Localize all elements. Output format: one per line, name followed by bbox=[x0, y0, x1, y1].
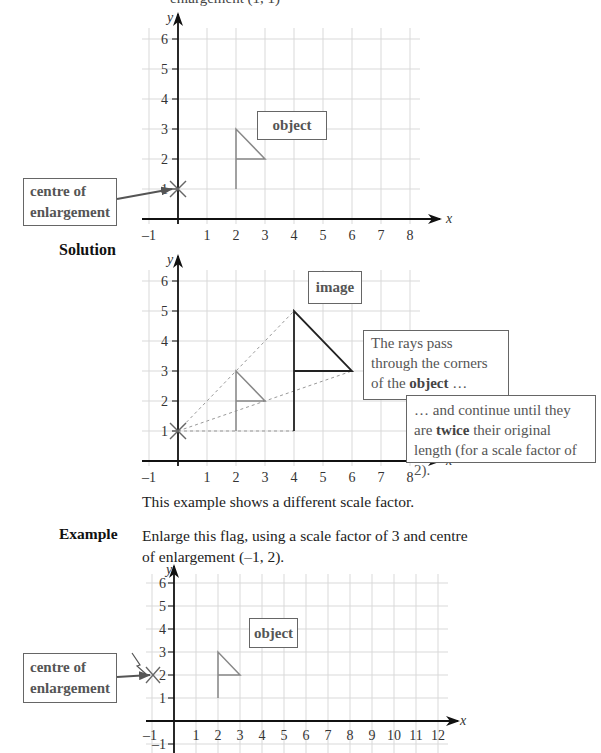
svg-text:–1: –1 bbox=[142, 728, 157, 743]
svg-text:3: 3 bbox=[237, 728, 244, 743]
svg-text:7: 7 bbox=[378, 470, 385, 485]
svg-text:4: 4 bbox=[161, 334, 168, 349]
callout-line-1: centre of bbox=[30, 657, 110, 678]
svg-text:4: 4 bbox=[291, 228, 298, 243]
svg-text:–1: –1 bbox=[141, 228, 156, 243]
svg-text:2: 2 bbox=[233, 470, 240, 485]
svg-text:2: 2 bbox=[161, 394, 168, 409]
svg-text:6: 6 bbox=[349, 470, 356, 485]
svg-text:y: y bbox=[165, 10, 174, 25]
object-label: object bbox=[257, 111, 327, 140]
svg-text:3: 3 bbox=[159, 645, 166, 660]
stray-mark bbox=[132, 653, 146, 674]
svg-text:1: 1 bbox=[159, 691, 166, 706]
svg-text:4: 4 bbox=[291, 470, 298, 485]
object-flag bbox=[236, 371, 265, 431]
svg-text:x: x bbox=[445, 211, 453, 226]
svg-text:y: y bbox=[165, 252, 174, 267]
centre-of-enlargement-callout: centre of enlargement bbox=[23, 178, 117, 226]
callout-line-1: centre of bbox=[30, 181, 110, 202]
svg-text:2: 2 bbox=[215, 728, 222, 743]
figure3-graph: y x 654 321 –1 –112 345 678 91011 12 bbox=[117, 562, 467, 753]
svg-text:4: 4 bbox=[161, 92, 168, 107]
svg-text:6: 6 bbox=[161, 274, 168, 289]
intro-text: This example shows a different scale fac… bbox=[142, 493, 414, 510]
object-flag bbox=[218, 652, 240, 698]
svg-text:3: 3 bbox=[161, 364, 168, 379]
image-label: image bbox=[308, 271, 362, 304]
svg-text:12: 12 bbox=[431, 728, 445, 743]
svg-text:3: 3 bbox=[161, 122, 168, 137]
svg-text:6: 6 bbox=[303, 728, 310, 743]
example-heading: Example bbox=[59, 525, 118, 542]
svg-text:10: 10 bbox=[387, 728, 401, 743]
svg-text:3: 3 bbox=[262, 228, 269, 243]
svg-text:5: 5 bbox=[320, 470, 327, 485]
svg-text:1: 1 bbox=[204, 228, 211, 243]
callout-line-2: enlargement bbox=[30, 678, 110, 699]
svg-text:6: 6 bbox=[349, 228, 356, 243]
object-label: object bbox=[249, 618, 298, 648]
svg-text:5: 5 bbox=[281, 728, 288, 743]
svg-text:9: 9 bbox=[369, 728, 376, 743]
svg-text:7: 7 bbox=[378, 228, 385, 243]
example-body: Enlarge this flag, using a scale factor … bbox=[142, 525, 482, 567]
svg-text:8: 8 bbox=[347, 728, 354, 743]
svg-text:2: 2 bbox=[161, 152, 168, 167]
callout-line-2: enlargement bbox=[30, 202, 110, 223]
svg-text:6: 6 bbox=[161, 32, 168, 47]
svg-text:8: 8 bbox=[407, 470, 414, 485]
centre-of-enlargement-callout: centre of enlargement bbox=[23, 653, 117, 703]
svg-text:5: 5 bbox=[161, 62, 168, 77]
svg-text:2: 2 bbox=[159, 668, 166, 683]
header-fragment: enlargement (1, 1) bbox=[170, 0, 280, 7]
svg-text:6: 6 bbox=[159, 576, 166, 591]
svg-text:–1: –1 bbox=[141, 470, 156, 485]
svg-text:4: 4 bbox=[159, 622, 166, 637]
svg-text:5: 5 bbox=[320, 228, 327, 243]
svg-text:1: 1 bbox=[204, 470, 211, 485]
scale-factor-note: … and continue until they are twice thei… bbox=[406, 395, 596, 463]
svg-text:5: 5 bbox=[161, 304, 168, 319]
svg-text:1: 1 bbox=[193, 728, 200, 743]
solution-heading: Solution bbox=[59, 241, 116, 258]
rays-note: The rays pass through the corners of the… bbox=[363, 330, 509, 400]
svg-text:8: 8 bbox=[407, 228, 414, 243]
svg-text:11: 11 bbox=[409, 728, 422, 743]
svg-text:1: 1 bbox=[161, 424, 168, 439]
svg-text:4: 4 bbox=[259, 728, 266, 743]
svg-text:2: 2 bbox=[233, 228, 240, 243]
svg-text:x: x bbox=[459, 713, 467, 728]
svg-text:5: 5 bbox=[159, 599, 166, 614]
svg-text:3: 3 bbox=[262, 470, 269, 485]
svg-text:7: 7 bbox=[325, 728, 332, 743]
